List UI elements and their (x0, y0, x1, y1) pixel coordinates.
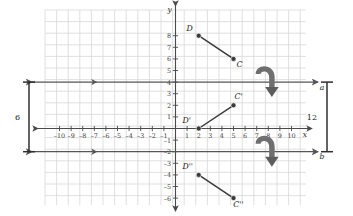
x-tick-label: 3 (208, 132, 212, 140)
x-tick-label: –2 (149, 132, 156, 140)
point-label-D: D (186, 24, 194, 33)
x-tick-label: 9 (278, 132, 282, 140)
x-tick-label: 10 (287, 132, 295, 140)
x-tick-label: –5 (114, 132, 121, 140)
x-tick-label: –4 (125, 132, 132, 140)
x-tick-label: –9 (67, 132, 74, 140)
coordinate-plane-svg: xy–10–9–8–7–6–5–4–3–2–112345678910876543… (0, 0, 353, 216)
y-tick-label: –6 (164, 195, 171, 203)
line-label-a: a (320, 83, 325, 92)
x-tick-label: –6 (102, 132, 109, 140)
y-tick-label: 5 (167, 67, 171, 75)
point-label-Dp: D' (181, 116, 190, 125)
x-tick-label: 1 (185, 132, 189, 140)
left-bracket-label: 6 (15, 113, 20, 122)
y-tick-label: 1 (167, 113, 171, 121)
figure-canvas: xy–10–9–8–7–6–5–4–3–2–112345678910876543… (0, 0, 353, 216)
x-tick-label: –10 (54, 132, 65, 140)
y-tick-label: 2 (167, 102, 171, 110)
x-tick-label: –8 (79, 132, 86, 140)
segment-D2C2 (199, 175, 234, 198)
y-tick-label: 8 (167, 32, 171, 40)
x-tick-label: –3 (137, 132, 144, 140)
x-tick-label: –7 (91, 132, 98, 140)
x-tick-label: 6 (243, 132, 247, 140)
y-tick-label: –1 (164, 137, 171, 145)
point-label-Cpp: C'' (233, 200, 243, 209)
point-label-Cp: C' (234, 92, 242, 101)
y-tick-label: –4 (164, 171, 171, 179)
line-label-b: b (320, 152, 325, 161)
point-label-C: C (237, 60, 243, 69)
segment-D1C1 (199, 105, 234, 128)
y-axis-label: y (166, 5, 172, 14)
x-axis-label: x (303, 130, 308, 139)
point-Dp[interactable] (196, 126, 201, 131)
y-tick-label: 7 (167, 44, 171, 52)
point-Cp[interactable] (231, 103, 236, 108)
x-tick-label: 5 (231, 132, 235, 140)
x-tick-label: 2 (197, 132, 201, 140)
point-D[interactable] (196, 33, 201, 38)
y-tick-label: –5 (164, 183, 171, 191)
point-Dpp[interactable] (196, 172, 201, 177)
right-bracket-label: 12 (307, 113, 317, 122)
segment-DC (199, 36, 234, 59)
y-tick-label: 6 (167, 55, 171, 63)
right-bracket (321, 82, 333, 152)
left-bracket (23, 82, 35, 152)
y-tick-label: –3 (164, 160, 171, 168)
point-label-Dpp: D'' (181, 162, 193, 171)
point-C[interactable] (231, 56, 236, 61)
y-tick-label: 3 (167, 90, 171, 98)
x-tick-label: 4 (220, 132, 224, 140)
